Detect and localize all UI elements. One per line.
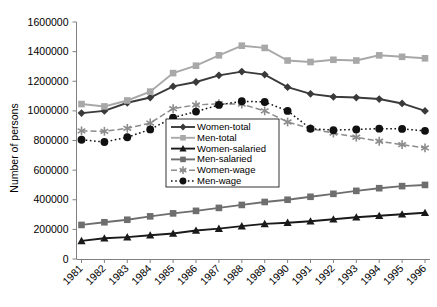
series-line — [82, 72, 426, 113]
data-point-marker — [238, 97, 246, 105]
data-point-marker — [78, 109, 86, 117]
data-point-marker — [284, 196, 291, 203]
data-point-marker — [421, 107, 429, 115]
x-tick-label: 1982 — [83, 262, 108, 287]
data-point-marker — [101, 219, 108, 226]
series-women-total — [78, 68, 429, 117]
data-point-marker — [330, 93, 338, 101]
data-point-marker — [170, 210, 177, 217]
data-point-marker — [193, 62, 200, 69]
data-point-marker — [261, 106, 269, 115]
data-point-marker — [147, 213, 154, 220]
legend-label: Men-total — [197, 132, 237, 143]
data-point-marker — [78, 101, 85, 108]
data-point-marker — [124, 216, 131, 223]
data-point-marker — [193, 208, 200, 215]
x-tick-label: 1981 — [60, 262, 85, 287]
y-tick-label: 1600000 — [28, 16, 69, 28]
y-tick-label: 400000 — [33, 193, 68, 205]
x-tick-label: 1984 — [129, 262, 154, 287]
x-axis-ticks: 1981198219831984198519861987198819891990… — [60, 259, 429, 287]
series-line — [82, 46, 426, 107]
data-point-marker — [376, 52, 383, 59]
data-point-marker — [284, 107, 292, 115]
data-point-marker — [124, 97, 131, 104]
series-women-salaried — [77, 209, 429, 245]
data-point-marker — [216, 52, 223, 59]
y-tick-label: 1000000 — [28, 104, 69, 116]
x-tick-label: 1991 — [289, 262, 314, 287]
data-point-marker — [261, 71, 269, 79]
x-tick-label: 1993 — [335, 262, 360, 287]
data-point-marker — [399, 54, 406, 61]
x-tick-label: 1983 — [106, 262, 131, 287]
series-line — [82, 185, 426, 225]
data-point-marker — [399, 183, 406, 190]
data-point-marker — [239, 202, 246, 209]
chart-legend: Women-totalMen-totalWomen-salariedMen-sa… — [166, 119, 279, 187]
data-point-marker — [123, 133, 131, 141]
legend-label: Women-wage — [197, 164, 255, 175]
data-point-marker — [78, 222, 85, 229]
data-point-marker — [307, 125, 315, 133]
data-point-marker — [421, 127, 429, 135]
y-tick-label: 800000 — [33, 134, 68, 146]
y-axis-label: Number of persons — [8, 103, 20, 192]
x-tick-label: 1986 — [174, 262, 199, 287]
data-point-marker — [180, 135, 186, 141]
data-point-marker — [307, 59, 314, 66]
data-point-marker — [147, 88, 154, 95]
data-point-marker — [353, 57, 360, 64]
data-point-marker — [101, 103, 108, 110]
y-tick-label: 200000 — [33, 223, 68, 235]
x-tick-label: 1996 — [403, 262, 428, 287]
data-point-marker — [261, 199, 268, 206]
data-point-marker — [353, 188, 360, 195]
data-point-marker — [330, 191, 337, 198]
x-tick-label: 1985 — [152, 262, 177, 287]
data-point-marker — [78, 136, 86, 144]
data-point-marker — [170, 70, 177, 77]
y-tick-label: 600000 — [33, 164, 68, 176]
data-point-marker — [215, 71, 223, 79]
data-point-marker — [375, 125, 383, 133]
legend-label: Women-total — [197, 121, 251, 132]
data-point-marker — [238, 68, 246, 76]
data-point-marker — [352, 94, 360, 102]
x-tick-label: 1988 — [220, 262, 245, 287]
legend-label: Men-salaried — [197, 153, 252, 164]
y-axis-ticks: 0200000400000600000800000100000012000001… — [28, 16, 77, 265]
data-point-marker — [146, 125, 154, 133]
y-tick-label: 0 — [63, 253, 69, 265]
line-chart: Number of persons 0200000400000600000800… — [0, 0, 437, 307]
chart-container: Number of persons 0200000400000600000800… — [0, 0, 437, 307]
data-point-marker — [261, 45, 268, 52]
x-tick-label: 1995 — [381, 262, 406, 287]
data-point-marker — [192, 108, 200, 116]
series-line — [82, 213, 426, 241]
data-point-marker — [375, 95, 383, 103]
x-tick-label: 1994 — [358, 262, 383, 287]
series-men-salaried — [78, 182, 428, 229]
data-point-marker — [398, 100, 406, 108]
data-point-marker — [284, 83, 292, 91]
data-point-marker — [101, 138, 109, 146]
data-point-marker — [215, 101, 223, 109]
data-point-marker — [422, 55, 429, 62]
data-point-marker — [261, 98, 269, 106]
x-tick-label: 1990 — [266, 262, 291, 287]
data-point-marker — [180, 157, 186, 163]
data-point-marker — [307, 90, 315, 98]
data-point-marker — [307, 193, 314, 200]
data-point-marker — [398, 125, 406, 133]
data-point-marker — [330, 126, 338, 134]
data-point-marker — [180, 178, 187, 185]
data-point-marker — [216, 205, 223, 212]
data-point-marker — [422, 182, 429, 189]
data-point-marker — [192, 78, 200, 86]
x-tick-label: 1987 — [197, 262, 222, 287]
data-point-marker — [239, 42, 246, 49]
data-point-marker — [352, 125, 360, 133]
y-axis-label-text: Number of persons — [8, 103, 20, 192]
legend-label: Women-salaried — [197, 143, 266, 154]
